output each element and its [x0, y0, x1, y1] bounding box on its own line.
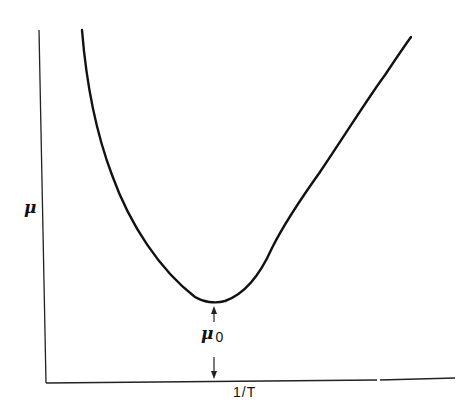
y-axis	[39, 30, 46, 383]
y-axis-label: μ	[24, 197, 36, 217]
min-mu-symbol: μ	[201, 323, 213, 343]
min-mu-label: μ0	[201, 323, 223, 345]
mu-curve	[82, 30, 411, 302]
arrowhead-up-icon	[211, 306, 217, 314]
x-axis-end	[380, 378, 455, 380]
min-mu-subscript: 0	[215, 329, 223, 345]
chart-canvas	[0, 0, 475, 417]
arrowhead-down-icon	[211, 371, 217, 379]
x-axis	[46, 380, 377, 383]
x-axis-label: 1/T	[233, 384, 256, 400]
